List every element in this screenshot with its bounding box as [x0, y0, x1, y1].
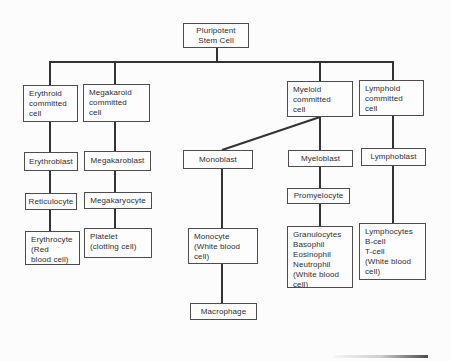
node-erythrocyte: Erythrocyte (Red blood cell) — [25, 231, 80, 265]
node-erythroblast: Erythroblast — [24, 152, 78, 171]
node-myeloblast: Myeloblast — [288, 150, 353, 167]
node-myeloid-committed-cell: Myeloid committed cell — [287, 81, 353, 117]
node-monoblast: Monoblast — [183, 150, 253, 169]
node-platelet: Platelet (clotting cell) — [84, 228, 152, 258]
node-monocyte: Monocyte (White blood cell) — [188, 228, 258, 264]
node-pluripotent-stem-cell: Pluripotent Stem Cell — [183, 23, 249, 48]
node-megakaroblast: Megakaroblast — [84, 151, 151, 171]
edge-myeloid-monoblast-diagonal — [222, 117, 320, 150]
node-lymphocytes: Lymphocytes B-cell T-cell (White blood c… — [359, 223, 426, 280]
node-erythroid-committed-cell: Erythroid committed cell — [23, 85, 78, 122]
scan-artifact-bar — [333, 355, 428, 358]
node-lymphoblast: Lymphoblast — [361, 148, 426, 166]
node-lymphoid-committed-cell: Lymphoid committed cell — [359, 80, 424, 116]
node-megakaryocyte: Megakaryocyte — [84, 192, 152, 209]
node-reticulocyte: Reticulocyte — [25, 193, 77, 210]
node-promyelocyte: Promyelocyte — [287, 188, 350, 204]
node-megakaroid-committed-cell: Megakaroid committed cell — [83, 84, 150, 122]
node-macrophage: Macrophage — [190, 303, 257, 320]
hematopoiesis-diagram: Pluripotent Stem Cell Erythroid committe… — [0, 0, 450, 361]
node-granulocytes: Granulocytes Basophil Eosinophil Neutrop… — [287, 226, 353, 288]
